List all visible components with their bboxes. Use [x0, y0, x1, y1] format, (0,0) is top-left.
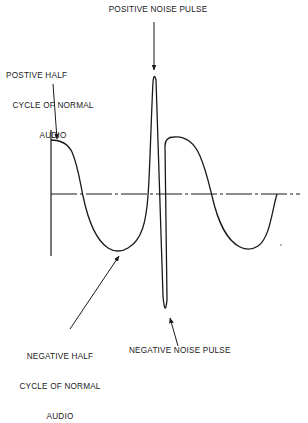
speck [280, 244, 282, 246]
positive-half-cycle-line-3: AUDIO [2, 131, 94, 141]
negative-noise-pulse-pointer [170, 318, 178, 346]
positive-half-cycle-label: POSTIVE HALF CYCLE OF NORMAL AUDIO [2, 51, 94, 161]
negative-half-cycle-label: NEGATIVE HALF CYCLE OF NORMAL AUDIO [14, 332, 106, 423]
negative-noise-pulse-label: NEGATIVE NOISE PULSE [129, 346, 231, 356]
negative-half-cycle-line-2: CYCLE OF NORMAL [14, 382, 106, 392]
negative-half-cycle-line-1: NEGATIVE HALF [14, 352, 106, 362]
negative-half-cycle-line-3: AUDIO [14, 412, 106, 422]
positive-half-cycle-line-2: CYCLE OF NORMAL [2, 101, 94, 111]
negative-half-cycle-pointer [70, 256, 119, 329]
positive-noise-pulse-label: POSITIVE NOISE PULSE [108, 5, 208, 15]
positive-half-cycle-line-1: POSTIVE HALF [2, 71, 94, 81]
